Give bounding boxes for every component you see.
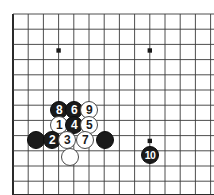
grid-lines: [12, 14, 214, 195]
stone-move-number: 9: [86, 103, 92, 115]
stone-move-number: 10: [145, 149, 156, 160]
stone-move-number: 6: [71, 103, 77, 115]
star-point: [148, 48, 152, 52]
stone-move-number: 2: [49, 133, 55, 145]
stone-move-number: 5: [86, 118, 92, 130]
stone-move-number: 7: [82, 133, 88, 145]
star-point: [56, 48, 60, 52]
stone-move-number: 4: [71, 118, 77, 130]
star-point: [148, 139, 152, 143]
go-board-diagram: 86914523710: [0, 0, 214, 195]
stone-move-number: 3: [64, 133, 70, 145]
stone-move-number: 8: [56, 103, 62, 115]
stone-move-number: 1: [56, 118, 62, 130]
go-board-grid: [0, 0, 214, 195]
